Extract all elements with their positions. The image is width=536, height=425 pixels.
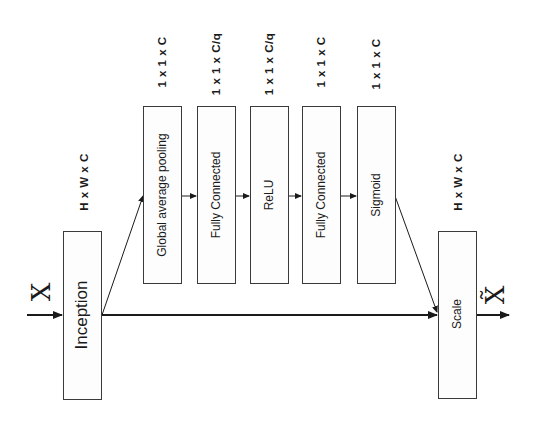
- fc2-dim-label: 1 x 1 x C: [313, 20, 329, 104]
- output-symbol: X̃: [480, 281, 510, 309]
- sigmoid-dim-label: 1 x 1 x C: [368, 22, 384, 106]
- scale-label: Scale: [449, 274, 465, 354]
- relu-label: ReLU: [261, 115, 277, 275]
- gap-dim-label: 1 x 1 x C: [154, 20, 170, 104]
- fc1-dim-label: 1 x 1 x C/q: [208, 22, 224, 106]
- sigmoid-to-scale-arrow: [395, 196, 437, 312]
- inception-to-gap-arrow: [102, 196, 143, 315]
- fc2-label: Fully Connected: [313, 115, 329, 275]
- inception-dim-label: H x W x C: [76, 142, 92, 222]
- sigmoid-label: Sigmoid: [368, 115, 384, 275]
- relu-dim-label: 1 x 1 x C/q: [261, 22, 277, 106]
- inception-label: Inception: [71, 235, 93, 395]
- scale-dim-label: H x W x C: [450, 142, 466, 222]
- input-symbol: X: [26, 279, 56, 305]
- gap-label: Global average pooling: [154, 115, 170, 275]
- fc1-label: Fully Connected: [208, 115, 224, 275]
